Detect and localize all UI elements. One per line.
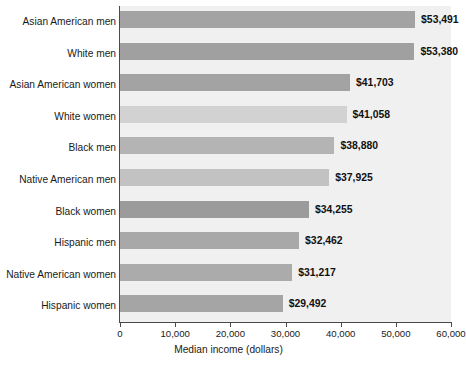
bar-value-label: $29,492 xyxy=(289,295,327,312)
category-label: Asian American men xyxy=(23,6,116,38)
bar-value-label: $31,217 xyxy=(298,264,336,281)
x-tick-label: 50,000 xyxy=(381,328,410,339)
x-tick-label: 30,000 xyxy=(271,328,300,339)
bar-row: Hispanic men$32,462 xyxy=(0,227,457,259)
bar-value-label: $41,058 xyxy=(353,106,391,123)
bar-value-label: $41,703 xyxy=(356,74,394,91)
bar-row: Black men$38,880 xyxy=(0,132,457,164)
bar-rows: Asian American men$53,491White men$53,38… xyxy=(0,6,457,322)
bar-row: Native American men$37,925 xyxy=(0,164,457,196)
bar-row: White men$53,380 xyxy=(0,38,457,70)
x-tick-label: 10,000 xyxy=(160,328,189,339)
bar xyxy=(120,137,334,154)
x-tick xyxy=(341,322,342,327)
category-label: Hispanic women xyxy=(41,290,116,322)
x-axis-ticks: 010,00020,00030,00040,00050,00060,000 xyxy=(0,322,457,344)
category-label: Black men xyxy=(68,132,116,164)
bar xyxy=(120,43,414,60)
bar-row: Hispanic women$29,492 xyxy=(0,290,457,322)
category-label: Native American women xyxy=(6,259,116,291)
category-label: Asian American women xyxy=(10,69,116,101)
bar-row: White women$41,058 xyxy=(0,101,457,133)
bar xyxy=(120,295,283,312)
x-tick-label: 20,000 xyxy=(216,328,245,339)
bar xyxy=(120,11,415,28)
bar-value-label: $53,491 xyxy=(421,11,459,28)
category-label: White men xyxy=(67,38,116,70)
x-tick xyxy=(286,322,287,327)
bar-row: Native American women$31,217 xyxy=(0,259,457,291)
x-axis-title: Median income (dollars) xyxy=(0,344,457,355)
bar xyxy=(120,106,347,123)
x-tick xyxy=(175,322,176,327)
bar-value-label: $38,880 xyxy=(340,137,378,154)
bar xyxy=(120,169,329,186)
category-label: Black women xyxy=(55,196,116,228)
bar xyxy=(120,74,350,91)
x-tick xyxy=(396,322,397,327)
bar-value-label: $53,380 xyxy=(420,43,458,60)
bar xyxy=(120,201,309,218)
bar xyxy=(120,264,292,281)
bar-value-label: $34,255 xyxy=(315,201,353,218)
bar-value-label: $37,925 xyxy=(335,169,373,186)
bar-row: Asian American women$41,703 xyxy=(0,69,457,101)
bar-value-label: $32,462 xyxy=(305,232,343,249)
x-tick xyxy=(230,322,231,327)
x-tick-label: 40,000 xyxy=(326,328,355,339)
bar-row: Black women$34,255 xyxy=(0,196,457,228)
x-tick-label: 60,000 xyxy=(436,328,465,339)
category-label: White women xyxy=(54,101,116,133)
x-tick xyxy=(120,322,121,327)
category-label: Native American men xyxy=(19,164,116,196)
bar xyxy=(120,232,299,249)
x-tick xyxy=(451,322,452,327)
category-label: Hispanic men xyxy=(54,227,116,259)
bar-row: Asian American men$53,491 xyxy=(0,6,457,38)
x-tick-label: 0 xyxy=(117,328,122,339)
